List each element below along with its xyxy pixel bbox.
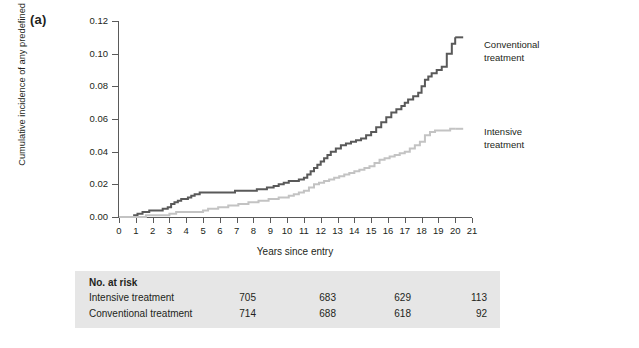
- x-tick-label: 7: [228, 225, 246, 236]
- x-tick: [203, 218, 204, 223]
- x-tick-label: 16: [379, 225, 397, 236]
- risk-value: 705: [222, 292, 256, 303]
- y-axis-title: Cumulative incidence of any predefined c…: [16, 0, 28, 184]
- risk-table: No. at risk Intensive treatment 705 683 …: [75, 271, 500, 328]
- cumulative-incidence-curves: [119, 21, 472, 217]
- x-tick-label: 6: [211, 225, 229, 236]
- legend-conventional: Conventional treatment: [484, 39, 574, 64]
- x-tick-label: 13: [329, 225, 347, 236]
- y-tick: [112, 152, 118, 153]
- x-tick-label: 21: [463, 225, 481, 236]
- x-tick: [354, 218, 355, 223]
- x-tick-label: 15: [362, 225, 380, 236]
- series-intensive-treatment: [119, 129, 455, 217]
- risk-value: 92: [453, 308, 487, 319]
- x-axis-line: [118, 217, 472, 218]
- x-tick-label: 9: [261, 225, 279, 236]
- x-tick-label: 3: [160, 225, 178, 236]
- y-tick-label: 0.08: [62, 80, 108, 91]
- x-tick-label: 0: [110, 225, 128, 236]
- risk-table-title: No. at risk: [89, 277, 137, 288]
- legend-intensive-line1: Intensive: [484, 126, 574, 139]
- risk-row-label: Conventional treatment: [89, 308, 219, 319]
- x-tick-label: 12: [312, 225, 330, 236]
- x-tick-label: 18: [413, 225, 431, 236]
- plot-area: [119, 21, 472, 217]
- y-tick: [112, 184, 118, 185]
- y-tick-label: 0.04: [62, 146, 108, 157]
- y-tick: [112, 86, 118, 87]
- x-tick-label: 4: [177, 225, 195, 236]
- x-tick: [270, 218, 271, 223]
- x-tick-label: 14: [345, 225, 363, 236]
- x-tick: [438, 218, 439, 223]
- panel-label: (a): [30, 12, 47, 27]
- x-tick-label: 1: [127, 225, 145, 236]
- x-tick: [388, 218, 389, 223]
- legend-intensive: Intensive treatment: [484, 126, 574, 151]
- y-tick-label: 0.02: [62, 178, 108, 189]
- x-tick-label: 8: [244, 225, 262, 236]
- y-tick-label: 0.12: [62, 15, 108, 26]
- x-tick-label: 20: [446, 225, 464, 236]
- risk-value: 714: [222, 308, 256, 319]
- y-tick: [112, 21, 118, 22]
- legend-conventional-line1: Conventional: [484, 39, 574, 52]
- legend-intensive-line2: treatment: [484, 139, 574, 152]
- x-tick-label: 11: [295, 225, 313, 236]
- x-tick: [455, 218, 456, 223]
- risk-value: 688: [302, 308, 336, 319]
- x-tick: [237, 218, 238, 223]
- y-tick: [112, 119, 118, 120]
- risk-value: 113: [453, 292, 487, 303]
- x-tick: [119, 218, 120, 223]
- series-conventional-treatment: [119, 37, 455, 217]
- risk-value: 618: [377, 308, 411, 319]
- x-tick-label: 5: [194, 225, 212, 236]
- x-tick: [338, 218, 339, 223]
- y-tick-label: 0.10: [62, 48, 108, 59]
- x-tick: [136, 218, 137, 223]
- x-tick-label: 17: [396, 225, 414, 236]
- x-tick: [405, 218, 406, 223]
- risk-row-label: Intensive treatment: [89, 292, 219, 303]
- y-tick-label: 0.06: [62, 113, 108, 124]
- x-tick: [169, 218, 170, 223]
- risk-value: 629: [377, 292, 411, 303]
- x-tick: [253, 218, 254, 223]
- x-axis-title: Years since entry: [118, 246, 472, 257]
- x-tick-label: 10: [278, 225, 296, 236]
- x-tick: [422, 218, 423, 223]
- x-tick: [220, 218, 221, 223]
- legend-conventional-line2: treatment: [484, 52, 574, 65]
- x-tick: [472, 218, 473, 223]
- x-tick-label: 19: [429, 225, 447, 236]
- y-tick-label: 0.00: [62, 211, 108, 222]
- x-tick: [371, 218, 372, 223]
- x-tick: [186, 218, 187, 223]
- x-tick: [153, 218, 154, 223]
- x-tick: [287, 218, 288, 223]
- y-tick: [112, 217, 118, 218]
- figure-panel-a: (a) 0.000.020.040.060.080.100.12 0123456…: [0, 0, 639, 348]
- y-tick: [112, 54, 118, 55]
- x-tick: [304, 218, 305, 223]
- x-tick: [321, 218, 322, 223]
- x-tick-label: 2: [144, 225, 162, 236]
- risk-value: 683: [302, 292, 336, 303]
